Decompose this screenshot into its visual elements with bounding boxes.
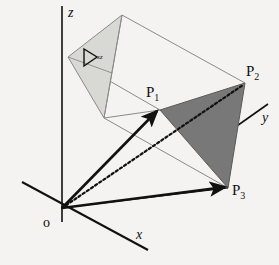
vector-o-p1 (62, 111, 157, 208)
point-label-p2: P2 (246, 64, 259, 82)
vector-diagram-svg (0, 0, 279, 265)
point-label-p3-index: 3 (240, 190, 245, 201)
point-label-p2-index: 2 (254, 71, 259, 82)
point-label-p3: P3 (232, 183, 245, 201)
axis-label-x: x (136, 228, 142, 242)
axis-label-z: z (68, 6, 73, 20)
figure-canvas: z y x o P1 P2 P3 xz (0, 0, 279, 265)
point-label-p1-index: 1 (154, 92, 159, 103)
triangle-p1-p2-p3 (160, 83, 245, 188)
point-label-p1: P1 (146, 85, 159, 103)
prism-edge-top (122, 15, 245, 83)
origin-label: o (43, 216, 50, 230)
triangle-marker-subscript: xz (97, 53, 103, 60)
axis-label-y: y (262, 111, 268, 125)
triangle-marker-label: xz (97, 50, 103, 60)
